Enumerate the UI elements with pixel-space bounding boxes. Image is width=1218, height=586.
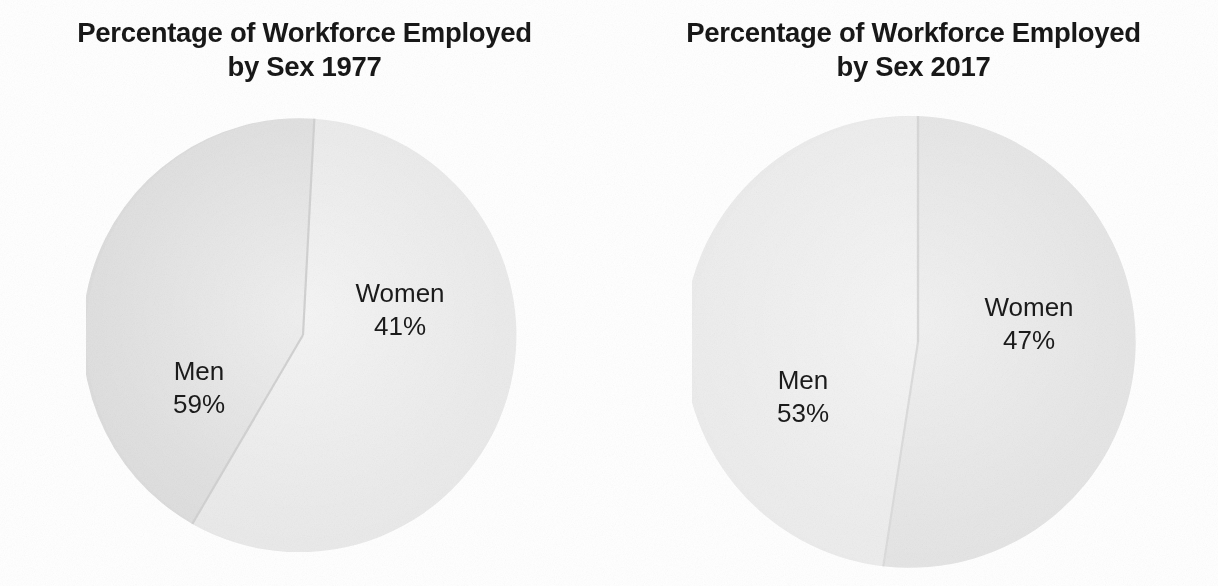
pie-label-women-1977: Women 41% xyxy=(325,277,475,343)
pie-label-men-1977: Men 59% xyxy=(139,355,259,421)
chart-title-2017: Percentage of Workforce Employed by Sex … xyxy=(609,16,1218,84)
figure-root: Percentage of Workforce Employed by Sex … xyxy=(0,0,1218,586)
chart-panel-2017: Percentage of Workforce Employed by Sex … xyxy=(609,0,1218,586)
chart-panel-1977: Percentage of Workforce Employed by Sex … xyxy=(0,0,609,586)
chart-title-1977: Percentage of Workforce Employed by Sex … xyxy=(0,16,609,84)
pie-label-women-2017: Women 47% xyxy=(954,291,1104,357)
pie-label-men-2017: Men 53% xyxy=(743,364,863,430)
